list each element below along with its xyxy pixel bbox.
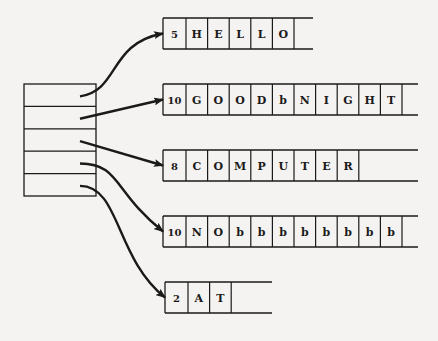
blank-char-cell: b (301, 226, 309, 239)
char-cell: C (192, 160, 201, 173)
string-record-3: 10NObbbbbbbb (163, 216, 418, 247)
char-cell: D (257, 94, 267, 107)
char-cell: T (216, 292, 225, 305)
blank-char-cell: b (323, 226, 331, 239)
char-cell: H (364, 94, 374, 107)
string-record-0: 5HELLO (163, 18, 313, 49)
char-cell: L (258, 28, 266, 41)
char-cell: R (343, 160, 353, 173)
char-cell: A (194, 292, 204, 305)
char-cell: E (214, 28, 222, 41)
char-cell: O (235, 94, 245, 107)
string-records: 5HELLO10GOODbNIGHT8COMPUTER10NObbbbbbbb2… (163, 18, 418, 313)
string-record-1: 10GOODbNIGHT (163, 84, 418, 115)
char-cell: M (234, 160, 246, 173)
pointer-arrows (80, 34, 165, 298)
char-cell: N (192, 226, 202, 239)
length-count: 10 (168, 227, 182, 238)
char-cell: H (192, 28, 202, 41)
char-cell: U (278, 160, 288, 173)
length-count: 2 (173, 293, 180, 304)
char-cell: G (192, 94, 201, 107)
pointer-array (24, 84, 96, 196)
char-cell: O (214, 94, 224, 107)
char-cell: L (236, 28, 244, 41)
blank-char-cell: b (258, 226, 266, 239)
char-cell: O (214, 160, 224, 173)
pointer-arrow-4 (80, 186, 165, 298)
char-cell: N (300, 94, 310, 107)
char-cell: T (387, 94, 396, 107)
length-count: 8 (171, 161, 178, 172)
blank-char-cell: b (344, 226, 352, 239)
blank-char-cell: b (387, 226, 395, 239)
length-count: 10 (168, 95, 182, 106)
blank-char-cell: b (279, 226, 287, 239)
blank-char-cell: b (236, 226, 244, 239)
blank-char-cell: b (366, 226, 374, 239)
char-cell: P (257, 160, 265, 173)
char-cell: I (324, 94, 329, 107)
pointer-array-frame (24, 84, 96, 196)
char-cell: O (278, 28, 288, 41)
pointer-arrow-0 (80, 34, 163, 97)
char-cell: G (343, 94, 352, 107)
pointer-arrow-2 (80, 141, 163, 165)
char-cell: O (214, 226, 224, 239)
pointer-arrow-1 (80, 100, 163, 119)
string-pointer-array-diagram: 5HELLO10GOODbNIGHT8COMPUTER10NObbbbbbbb2… (0, 0, 438, 341)
string-record-2: 8COMPUTER (163, 150, 418, 181)
length-count: 5 (171, 29, 178, 40)
string-record-4: 2AT (165, 282, 272, 313)
char-cell: E (322, 160, 330, 173)
char-cell: T (301, 160, 310, 173)
blank-char-cell: b (279, 94, 287, 107)
